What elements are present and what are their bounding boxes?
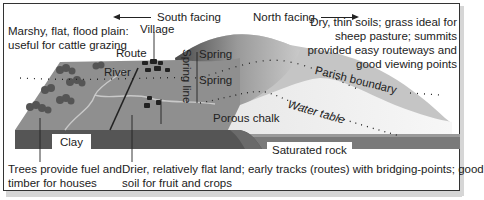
spring-line-label: Spring line	[180, 49, 194, 103]
dry-soils-annotation: Dry, thin soils; grass ideal for sheep p…	[307, 15, 457, 71]
flood-plain-annotation: Marshy, flat, flood plain: useful for ca…	[8, 24, 129, 52]
arrow-left-icon	[115, 17, 151, 18]
porous-chalk-label: Porous chalk	[213, 111, 279, 125]
village-label: Village	[140, 22, 174, 36]
route-label: Route	[116, 46, 147, 60]
drier-land-annotation: Drier, relatively flat land; early track…	[122, 162, 484, 190]
trees-annotation: Trees provide fuel and timber for houses	[8, 162, 122, 190]
spring-upper-label: Spring	[199, 47, 232, 61]
spring-lower-label: Spring	[199, 73, 232, 87]
saturated-rock-label: Saturated rock	[267, 142, 352, 158]
clay-label: Clay	[52, 134, 91, 150]
river-label: River	[104, 65, 131, 79]
